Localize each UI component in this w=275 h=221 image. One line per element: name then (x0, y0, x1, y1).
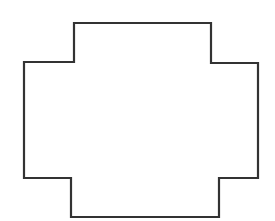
cross-shaped-polygon (24, 23, 258, 217)
diagram-canvas (0, 0, 275, 221)
